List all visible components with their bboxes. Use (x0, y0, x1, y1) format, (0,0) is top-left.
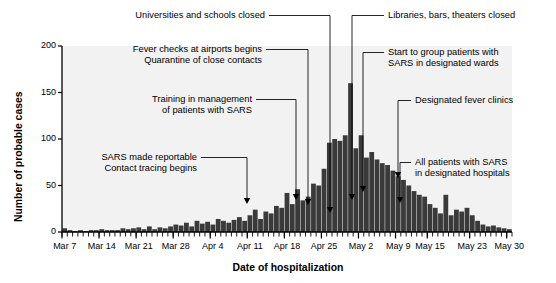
annotation-line: Contact tracing begins (101, 163, 197, 174)
bar (136, 227, 141, 232)
bar (189, 226, 194, 232)
annotation-line: SARS in designated wards (388, 58, 499, 69)
x-tick-label: May 30 (481, 241, 537, 251)
bar (248, 215, 253, 232)
bar (158, 227, 163, 232)
bar (454, 210, 459, 232)
y-tick-label: 0 (20, 226, 56, 236)
bar (221, 221, 226, 232)
annotation-libraries-bars-theaters-closed: Libraries, bars, theaters closed (388, 10, 515, 21)
bar (147, 226, 152, 232)
bar (380, 163, 385, 232)
bar (438, 213, 443, 232)
bar (343, 135, 348, 232)
annotation-designated-fever-clinics: Designated fever clinics (415, 95, 513, 106)
bar (480, 225, 485, 232)
bar (263, 212, 268, 232)
bar (491, 225, 496, 232)
bar (237, 217, 242, 232)
bar (428, 204, 433, 232)
bar (311, 184, 316, 232)
bar (338, 141, 343, 232)
bar (406, 186, 411, 233)
annotation-line: of patients with SARS (152, 105, 252, 116)
bar (390, 171, 395, 232)
bar (195, 221, 200, 232)
bar (210, 225, 215, 232)
bar (200, 224, 205, 232)
bar (364, 158, 369, 232)
annotation-line: Start to group patients with (388, 47, 499, 58)
annotation-training-management-patients: Training in managementof patients with S… (152, 94, 252, 115)
bar (242, 221, 247, 232)
bar (216, 219, 221, 232)
bar (465, 208, 470, 232)
bar (332, 139, 337, 232)
bar (322, 169, 327, 232)
bar (316, 186, 321, 233)
bar (232, 220, 237, 232)
y-tick-label: 150 (20, 87, 56, 97)
bar (412, 191, 417, 232)
bar (353, 148, 358, 232)
bar (385, 165, 390, 232)
bar (179, 225, 184, 232)
bar (486, 226, 491, 232)
annotation-line: All patients with SARS (415, 157, 510, 168)
y-tick-label: 100 (20, 133, 56, 143)
sars-epidemic-curve-figure: Number of probable cases Date of hospita… (0, 0, 556, 283)
bar (205, 222, 210, 232)
bar (449, 215, 454, 232)
annotation-all-patients-designated-hospitals: All patients with SARSin designated hosp… (415, 157, 510, 178)
annotation-sars-made-reportable: SARS made reportableContact tracing begi… (101, 152, 197, 173)
bar (401, 180, 406, 232)
bar (168, 226, 173, 232)
annotation-line: Universities and schools closed (135, 10, 265, 21)
bar (279, 208, 284, 232)
annotation-line: Fever checks at airports begins (133, 44, 262, 55)
bar (422, 197, 427, 232)
y-tick-label: 50 (20, 180, 56, 190)
bar (285, 193, 290, 232)
y-axis-title: Number of probable cases (13, 92, 24, 223)
bar (417, 195, 422, 232)
bar (459, 212, 464, 232)
annotation-line: Libraries, bars, theaters closed (388, 10, 515, 21)
bar (184, 223, 189, 232)
bar (269, 213, 274, 232)
bar (369, 152, 374, 232)
bar (443, 195, 448, 232)
bar (226, 223, 231, 232)
annotation-line: Designated fever clinics (415, 95, 513, 106)
bar (327, 143, 332, 232)
annotation-universities-schools-closed: Universities and schools closed (135, 10, 265, 21)
annotation-line: Training in management (152, 94, 252, 105)
annotation-line: SARS made reportable (101, 152, 197, 163)
bar (375, 159, 380, 232)
annotation-group-patients-designated-wards: Start to group patients withSARS in desi… (388, 47, 499, 68)
y-tick-label: 200 (20, 40, 56, 50)
bar (470, 215, 475, 232)
bar (274, 206, 279, 232)
x-axis-title: Date of hospitalization (10, 262, 556, 273)
bar (496, 227, 501, 232)
bar (290, 204, 295, 232)
bar (173, 225, 178, 232)
bar (475, 221, 480, 232)
annotation-line: Quarantine of close contacts (133, 55, 262, 66)
bar (253, 210, 258, 232)
annotation-line: in designated hospitals (415, 168, 510, 179)
annotation-fever-checks-airports: Fever checks at airports beginsQuarantin… (133, 44, 262, 65)
bar (433, 208, 438, 232)
bar (300, 200, 305, 232)
bar (258, 219, 263, 232)
